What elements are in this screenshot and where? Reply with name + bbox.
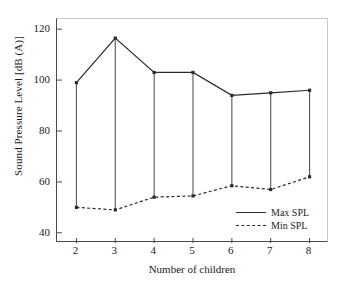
- legend-item-min-spl: Min SPL: [236, 219, 309, 232]
- y-tick-label: 60: [20, 175, 50, 187]
- x-tick-label: 8: [306, 244, 312, 256]
- y-tick-label: 80: [20, 124, 50, 136]
- y-tick-label: 120: [20, 22, 50, 34]
- x-tick-label: 3: [112, 244, 118, 256]
- x-tick-label: 2: [73, 244, 79, 256]
- chart-legend: Max SPL Min SPL: [236, 206, 309, 232]
- y-tick-label: 40: [20, 226, 50, 238]
- chart-figure: 406080100120 Sound Pressure Level [dB (A…: [0, 0, 338, 287]
- legend-swatch-dashed-line-icon: [236, 225, 266, 226]
- legend-label: Max SPL: [271, 206, 309, 219]
- y-axis-title: Sound Pressure Level [dB (A)]: [12, 6, 24, 206]
- x-tick-label: 4: [150, 244, 156, 256]
- x-tick-label: 7: [267, 244, 273, 256]
- y-tick-label: 100: [20, 73, 50, 85]
- legend-swatch-solid-line-icon: [236, 212, 266, 213]
- x-tick-label: 5: [189, 244, 195, 256]
- legend-label: Min SPL: [271, 219, 307, 232]
- y-axis-tick-labels: 406080100120: [22, 18, 50, 242]
- x-axis-title: Number of children: [56, 263, 328, 275]
- x-tick-label: 6: [228, 244, 234, 256]
- legend-item-max-spl: Max SPL: [236, 206, 309, 219]
- x-axis-tick-labels: 2345678: [56, 244, 328, 262]
